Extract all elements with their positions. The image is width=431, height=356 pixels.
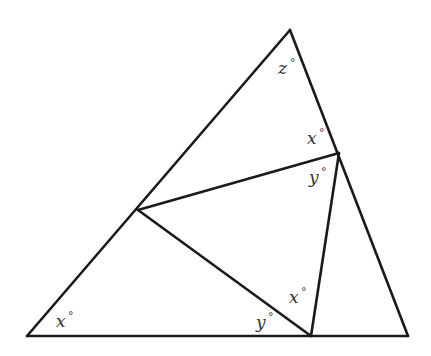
triangle-diagram: z ° x ° y ° x ° y ° x ° bbox=[0, 0, 431, 356]
angle-var: y bbox=[308, 167, 319, 187]
degree-symbol: ° bbox=[290, 56, 296, 69]
angle-label-y-right-lower: y ° bbox=[308, 165, 327, 187]
degree-symbol: ° bbox=[301, 285, 307, 298]
degree-symbol: ° bbox=[319, 126, 325, 139]
angle-label-x-right-upper: x ° bbox=[307, 126, 325, 148]
outer-left-side bbox=[27, 30, 290, 336]
angle-label-y-bottom-left: y ° bbox=[255, 310, 274, 332]
outer-right-side bbox=[290, 30, 408, 336]
angle-var: x bbox=[289, 287, 299, 307]
angle-label-x-bottom-left-corner: x ° bbox=[56, 309, 74, 331]
degree-symbol: ° bbox=[321, 165, 327, 178]
inner-left-side bbox=[138, 210, 311, 336]
angle-label-x-bottom-upper: x ° bbox=[289, 285, 307, 307]
angle-var: z bbox=[277, 58, 288, 78]
degree-symbol: ° bbox=[268, 310, 274, 323]
angle-var: x bbox=[307, 128, 317, 148]
degree-symbol: ° bbox=[68, 309, 74, 322]
angle-var: x bbox=[56, 311, 66, 331]
angle-var: y bbox=[255, 312, 266, 332]
angle-label-z-top: z ° bbox=[277, 56, 296, 78]
